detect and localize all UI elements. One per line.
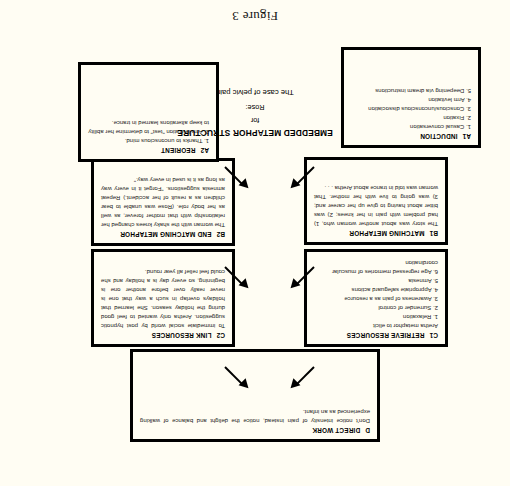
box-c1-lead: Aretha metaphor to elicit [314, 321, 438, 330]
figure-sheet: DDIRECT WORK Don't notice intensity of p… [0, 0, 510, 486]
box-d-direct-work: DDIRECT WORK Don't notice intensity of p… [130, 349, 380, 442]
box-c2-link-resources: C2LINK RESOURCES To immediate social wor… [91, 249, 235, 347]
box-b2-text: The woman with the shaky knees changed h… [101, 175, 225, 229]
box-b1-title: MATCHING METAPHOR [349, 230, 424, 237]
box-c1-body: Aretha metaphor to elicit 1. Relaxation … [314, 258, 438, 330]
box-c1-header: C1RETRIEVE RESOURCES [314, 332, 438, 339]
center-title-line4: The case of pelvic pain [150, 88, 360, 97]
box-d-header: DDIRECT WORK [140, 427, 370, 434]
box-a1-item-3: 3. Conscious/unconscious dissociation [351, 104, 471, 113]
box-a1-title: INDUCTION [420, 133, 457, 140]
box-a2-title: REORIENT [161, 147, 196, 154]
box-c1-item-2: 2. Surrender of control [314, 303, 438, 312]
box-b1-header: B1MATCHING METAPHOR [314, 230, 438, 237]
box-b2-end-matching-metaphor: B2END MATCHING METAPHOR The woman with t… [91, 158, 235, 246]
box-a1-code: A1 [462, 133, 471, 140]
box-b1-text: The story was about another woman who, 1… [314, 183, 438, 228]
box-a1-item-1: 1. Casual conversation [351, 122, 471, 131]
box-b2-title: END MATCHING METAPHOR [120, 231, 211, 238]
box-c1-item-6: 6. Age regressed memories of muscular co… [314, 258, 438, 276]
box-a1-item-2: 2. Fixation [351, 113, 471, 122]
box-c1-item-3: 3. Awareness of pain as a resource [314, 294, 438, 303]
box-c1-title: RETRIEVE RESOURCES [347, 332, 425, 339]
box-a1-item-5: 5. Deepening via dream instructions [351, 86, 471, 95]
box-d-code: D [365, 427, 370, 434]
box-d-text: Don't notice intensity of pain instead, … [140, 407, 370, 425]
box-d-title: DIRECT WORK [312, 427, 360, 434]
box-b2-header: B2END MATCHING METAPHOR [101, 231, 225, 238]
box-c2-title: LINK RESOURCES [151, 332, 211, 339]
box-c1-retrieve-resources: C1RETRIEVE RESOURCES Aretha metaphor to … [304, 249, 448, 347]
center-title-line3: Rose: [150, 103, 360, 113]
box-a1-item-4: 4. Arm levitation [351, 95, 471, 104]
box-a2-header: A2REORIENT [88, 147, 209, 154]
box-c2-text: To immediate social world by post hypnot… [101, 267, 225, 330]
box-a2-code: A2 [200, 147, 209, 154]
center-title-line1: EMBEDDED METAPHOR STRUCTURE [150, 128, 360, 138]
box-c1-item-5: 5. Amnesia [314, 276, 438, 285]
figure-caption: Figure 3 [0, 8, 510, 24]
box-c2-header: C2LINK RESOURCES [101, 332, 225, 339]
center-title-line2: for [150, 115, 360, 125]
box-a1-header: A1INDUCTION [351, 133, 471, 140]
box-b1-code: B1 [429, 230, 438, 237]
box-a1-body: 1. Casual conversation 2. Fixation 3. Co… [351, 86, 471, 131]
center-title-block: EMBEDDED METAPHOR STRUCTURE for Rose: Th… [150, 88, 360, 138]
box-c1-item-4: 4. Appropriate safeguard actions [314, 285, 438, 294]
box-c1-code: C1 [429, 332, 438, 339]
box-c1-item-1: 1. Relaxation [314, 312, 438, 321]
box-b2-code: B2 [216, 231, 225, 238]
box-b1-matching-metaphor: B1MATCHING METAPHOR The story was about … [304, 157, 448, 245]
box-a1-induction: A1INDUCTION 1. Casual conversation 2. Fi… [341, 47, 481, 148]
box-c2-code: C2 [216, 332, 225, 339]
